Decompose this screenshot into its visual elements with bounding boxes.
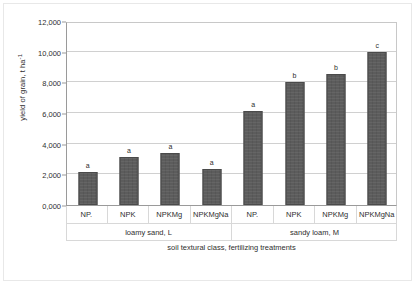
bar[interactable] [285,82,304,205]
group-label: sandy loam, M [232,224,397,240]
y-tick-label: 4,000 [15,140,61,149]
category-axis-labels: NP.NPKNPKMgNPKMgNaNP.NPKNPKMgNPKMgNa [66,206,397,224]
y-tick-label: 2,000 [15,171,61,180]
plot-area: aaaaabbc [66,22,397,206]
y-tick-label: 10,000 [15,48,61,57]
bars-layer: aaaaabbc [67,23,396,205]
category-label: NPKMgNa [357,206,398,223]
category-label: NPK [274,206,316,223]
bar-significance-letter: a [86,162,90,169]
bar-significance-letter: b [334,64,338,71]
x-axis-title: soil textural class, fertilizing treatme… [66,243,397,252]
bar-slot: b [315,23,356,205]
bar-slot: a [191,23,232,205]
bar-slot: a [108,23,149,205]
y-tick-label: 0,000 [15,202,61,211]
category-label: NPKMg [315,206,357,223]
bar-significance-letter: b [293,72,297,79]
bar-slot: c [357,23,398,205]
category-label: NP. [66,206,108,223]
bar-slot: a [150,23,191,205]
bar[interactable] [78,172,97,205]
y-tick-label: 12,000 [15,18,61,27]
bar[interactable] [202,169,221,205]
chart-figure: yield of grain, t ha-1 0,0002,0004,0006,… [0,0,415,284]
bar-slot: a [233,23,274,205]
y-tick-label: 8,000 [15,79,61,88]
category-label: NPKMg [149,206,191,223]
bar-significance-letter: a [168,143,172,150]
bar-significance-letter: a [251,101,255,108]
group-axis-labels: loamy sand, Lsandy loam, M [66,224,397,241]
bar-significance-letter: c [376,42,380,49]
bar[interactable] [368,52,387,205]
bar[interactable] [326,74,345,205]
group-label: loamy sand, L [66,224,232,240]
bar[interactable] [120,157,139,205]
bar-significance-letter: a [127,147,131,154]
category-label: NP. [232,206,274,223]
bar[interactable] [161,153,180,205]
category-label: NPK [108,206,150,223]
bar-significance-letter: a [210,159,214,166]
bar[interactable] [244,111,263,205]
y-tick-label: 6,000 [15,110,61,119]
category-label: NPKMgNa [191,206,233,223]
bar-slot: b [274,23,315,205]
bar-slot: a [67,23,108,205]
